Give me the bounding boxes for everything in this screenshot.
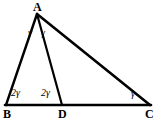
geometry-figure: A B C D γ γ 2γ 2γ γ [0, 0, 158, 124]
vertex-label-a: A [33, 1, 42, 13]
angle-label-bad: γ [28, 28, 32, 38]
vertex-label-d: D [58, 108, 67, 120]
angle-label-dac: γ [41, 28, 45, 38]
vertex-label-c: C [145, 108, 154, 120]
triangle-diagram-svg [0, 0, 158, 124]
angle-label-abd: 2γ [11, 88, 20, 98]
angle-label-acd: γ [131, 89, 135, 99]
angle-label-adb: 2γ [41, 88, 50, 98]
vertex-label-b: B [3, 108, 11, 120]
